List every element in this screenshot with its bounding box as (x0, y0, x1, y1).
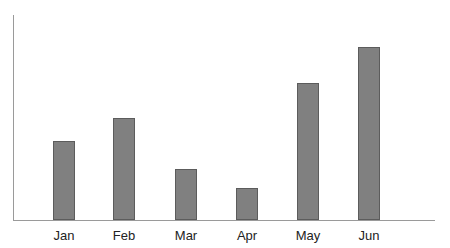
bar-apr[interactable] (236, 188, 258, 220)
x-label-feb: Feb (94, 228, 154, 244)
x-label-may: May (278, 228, 338, 244)
x-label-jun: Jun (339, 228, 399, 244)
plot-area (0, 0, 450, 220)
x-axis-labels: Jan Feb Mar Apr May Jun (0, 222, 450, 248)
x-label-mar: Mar (156, 228, 216, 244)
bar-jun[interactable] (358, 47, 380, 220)
bar-feb[interactable] (113, 118, 135, 220)
x-label-apr: Apr (217, 228, 277, 244)
bar-jan[interactable] (53, 141, 75, 220)
bar-may[interactable] (297, 83, 319, 220)
x-axis-line (13, 220, 435, 221)
bar-chart: Jan Feb Mar Apr May Jun (0, 0, 450, 248)
bar-mar[interactable] (175, 169, 197, 220)
x-label-jan: Jan (34, 228, 94, 244)
